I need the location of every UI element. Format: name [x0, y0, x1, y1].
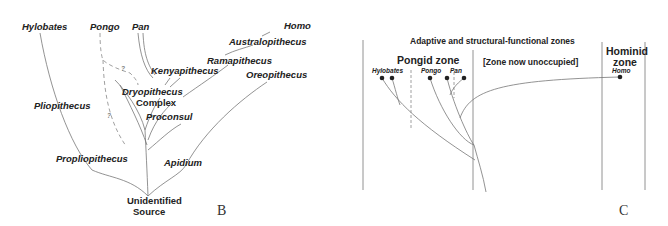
label-c-hylobates: Hylobates: [372, 68, 403, 75]
branch-c-homo: [460, 77, 620, 118]
node-hylobates-1: [380, 76, 385, 81]
phylogeny-diagram: [0, 0, 668, 226]
label-homo: Homo: [284, 21, 311, 31]
panel-letter-c: C: [619, 203, 628, 219]
zone-unoccupied: [Zone now unoccupied]: [483, 58, 578, 67]
branch-c-hylobates-b: [392, 78, 400, 105]
panel-letter-b: B: [217, 203, 226, 219]
branch-hylobates: [40, 33, 148, 196]
uncertain-mark-1: ?: [121, 66, 125, 73]
uncertain-mark-2: ?: [107, 113, 111, 120]
node-hylobates-2: [390, 76, 395, 81]
zone-hominid-line2: zone: [613, 57, 637, 68]
node-pan-1: [445, 76, 450, 81]
label-c-pan: Pan: [450, 68, 462, 75]
zone-hominid-line1: Hominid: [606, 46, 648, 57]
label-hylobates: Hylobates: [22, 22, 67, 32]
dashed-pongo: [100, 33, 138, 85]
label-c-pongo: Pongo: [421, 68, 441, 75]
label-pongo: Pongo: [90, 22, 120, 32]
node-pan-2: [462, 76, 467, 81]
label-proconsul: Proconsul: [146, 112, 192, 122]
label-pliopithecus: Pliopithecus: [34, 101, 90, 111]
node-homo: [618, 75, 623, 80]
label-apidium: Apidium: [164, 158, 202, 168]
label-pan: Pan: [132, 22, 149, 32]
panel-c-title: Adaptive and structural-functional zones: [410, 37, 575, 46]
dashed-pongo-down: [103, 60, 126, 146]
node-pongo: [428, 76, 433, 81]
label-complex: Complex: [136, 98, 176, 108]
label-kenyapithecus: Kenyapithecus: [151, 66, 219, 76]
label-source-line1: Unidentified: [127, 196, 182, 206]
label-australopithecus: Australopithecus: [229, 37, 307, 47]
label-oreopithecus: Oreopithecus: [246, 70, 307, 80]
branch-c-pan2: [450, 78, 464, 95]
label-propliopithecus: Propliopithecus: [56, 154, 128, 164]
zone-pongid: Pongid zone: [397, 55, 459, 66]
label-c-homo: Homo: [612, 68, 630, 75]
label-dryopithecus: Dryopithecus: [122, 87, 183, 97]
label-source-line2: Source: [133, 207, 165, 217]
